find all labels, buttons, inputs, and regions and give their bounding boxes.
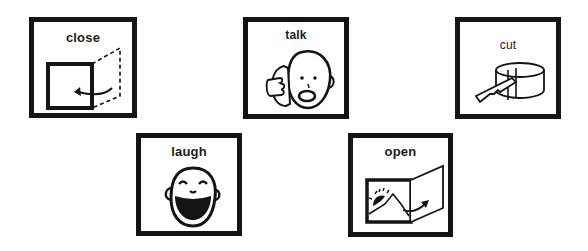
knife-cut-icon [472, 60, 552, 106]
close-door-icon [44, 52, 124, 112]
card-label: close [34, 30, 132, 45]
laughing-face-icon [163, 164, 223, 230]
card-label: cut [460, 38, 556, 52]
symbol-card-cut[interactable]: cut [455, 17, 561, 119]
card-label: open [353, 144, 448, 159]
symbol-card-open[interactable]: open [348, 133, 453, 237]
symbol-card-close[interactable]: close [29, 17, 137, 118]
phone-talk-icon [262, 46, 338, 114]
symbol-card-talk[interactable]: talk [243, 17, 349, 119]
card-label: talk [248, 28, 344, 42]
symbol-card-laugh[interactable]: laugh [136, 133, 242, 236]
open-door-icon [363, 164, 447, 230]
card-label: laugh [141, 144, 237, 159]
